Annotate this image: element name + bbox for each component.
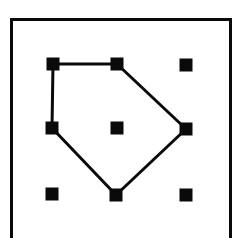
grid-dot-r2c1 xyxy=(46,122,59,135)
dot-grid-diagram xyxy=(0,0,241,238)
grid-dot-r2c3 xyxy=(180,123,193,136)
grid-dot-r3c1 xyxy=(46,188,59,201)
grid-dot-r3c3 xyxy=(180,189,193,202)
grid-dot-r1c1 xyxy=(47,58,60,71)
grid-dots xyxy=(46,58,193,202)
grid-dot-r1c2 xyxy=(111,58,124,71)
grid-dot-r1c3 xyxy=(180,59,193,72)
grid-dot-r2c2 xyxy=(111,122,124,135)
grid-dot-r3c2 xyxy=(110,189,123,202)
